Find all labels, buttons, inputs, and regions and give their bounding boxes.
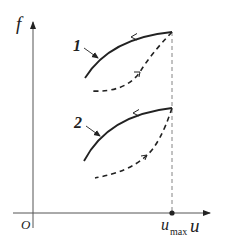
loop-2-label: 2: [73, 114, 82, 131]
loop-1-unloading-solid: [85, 32, 172, 78]
loop-2-pointer: [86, 126, 100, 136]
loop-1-label: 1: [73, 37, 81, 54]
loop-2-left-arrow-icon: [133, 110, 139, 117]
loop-2-loading-dashed: [95, 108, 172, 178]
umax-label: u: [161, 216, 169, 233]
loop-1-pointer: [84, 48, 98, 58]
y-axis-label: f: [16, 13, 24, 34]
diagram-canvas: f u O u max 1 2: [0, 0, 226, 246]
loop-2: [84, 108, 172, 178]
x-axis-label: u: [190, 215, 200, 236]
origin-label: O: [21, 217, 31, 232]
loop-1-left-arrow-icon: [131, 34, 137, 41]
umax-point: [169, 210, 174, 215]
loop-1: [84, 32, 172, 91]
umax-subscript: max: [170, 226, 187, 237]
